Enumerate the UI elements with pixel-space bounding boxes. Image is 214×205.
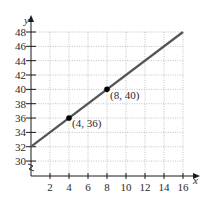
y-tick-label: 34 (15, 126, 27, 138)
x-tick-label: 14 (159, 181, 171, 193)
x-tick-label: 2 (47, 181, 53, 193)
x-tick-label: 8 (104, 181, 110, 193)
chart-svg: 24681012141630323436384042444648 y x (4,… (0, 0, 214, 205)
x-tick-label: 10 (121, 181, 133, 193)
grid (31, 32, 183, 176)
y-axis-label: y (23, 14, 29, 26)
y-axis-arrow-icon (28, 15, 34, 22)
chart: 24681012141630323436384042444648 y x (4,… (0, 0, 214, 205)
data-point (66, 115, 72, 121)
ticks: 24681012141630323436384042444648 (15, 26, 189, 193)
x-tick-label: 6 (85, 181, 91, 193)
y-tick-label: 32 (15, 141, 26, 153)
y-tick-label: 44 (15, 55, 27, 67)
y-tick-label: 40 (15, 83, 27, 95)
x-axis-label: x (192, 174, 198, 186)
data-point (104, 87, 110, 93)
y-tick-label: 48 (15, 26, 27, 38)
y-tick-label: 30 (15, 155, 27, 167)
x-tick-label: 16 (178, 181, 190, 193)
axis-break-icon (28, 164, 34, 171)
y-tick-label: 42 (15, 69, 26, 81)
x-tick-label: 4 (66, 181, 72, 193)
y-tick-label: 46 (15, 40, 27, 52)
point-label-a: (4, 36) (72, 117, 102, 130)
y-tick-label: 36 (15, 112, 27, 124)
x-tick-label: 12 (140, 181, 151, 193)
point-label-b: (8, 40) (110, 89, 140, 102)
y-tick-label: 38 (15, 98, 27, 110)
